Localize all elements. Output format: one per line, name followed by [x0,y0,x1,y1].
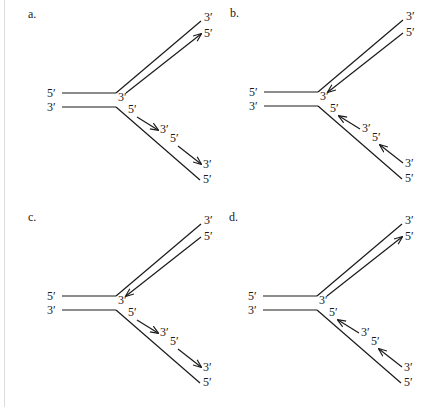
lower-frag1-end-label: 3′ [160,325,169,339]
lower-template-strand [116,107,200,180]
lower-frag1-end-label: 3′ [362,121,371,135]
lower-outer-end-label: 5′ [203,172,212,186]
upper-outer-end-label: 3′ [204,10,213,24]
panel-c: c. 5′ 3′ 3′ 5′ 3′ 5′ 3′ 5′ 3′ 5′ [28,210,213,389]
panel-label: b. [230,6,239,20]
lower-frag1-end-label: 3′ [160,122,169,136]
lower-frag2-start-label: 5′ [170,131,179,145]
lower-frag1-end-label: 3′ [361,325,370,339]
lower-template-strand [317,310,401,383]
upper-outer-end-label: 3′ [204,213,213,227]
upper-outer-end-label: 3′ [406,9,415,23]
upper-fork-label: 3′ [319,293,328,307]
parent-bottom-label: 3′ [47,100,56,114]
parent-top-label: 5′ [47,86,56,100]
lower-outer-end-label: 5′ [203,375,212,389]
lower-frag1-start-label: 5′ [128,305,137,319]
lower-outer-end-label: 5′ [404,375,413,389]
upper-fork-label: 3′ [118,90,127,104]
lower-frag2-start-label: 5′ [372,130,381,144]
panel-b: b. 5′ 3′ 3′ 5′ 3′ 5′ 3′ 5′ 3′ 5′ [230,6,415,185]
lower-template-strand [318,106,402,179]
upper-new-strand-arrow [126,34,201,93]
panel-label: c. [28,210,36,224]
upper-template-strand [116,224,201,296]
panel-d: d. 5′ 3′ 3′ 5′ 3′ 5′ 3′ 5′ 3′ 5′ [229,210,414,389]
upper-template-strand [318,20,403,92]
parent-top-label: 5′ [47,289,56,303]
lower-fragment2-arrow [379,349,402,367]
lower-frag2-end-label: 3′ [203,157,212,171]
upper-inner-end-label: 5′ [405,229,414,243]
lower-frag1-start-label: 5′ [329,305,338,319]
upper-inner-end-label: 5′ [204,26,213,40]
upper-inner-end-label: 5′ [406,25,415,39]
panel-label: a. [28,7,36,21]
upper-template-strand [317,224,402,296]
upper-fork-label: 3′ [320,89,329,103]
parent-bottom-label: 3′ [47,303,56,317]
upper-template-strand [116,21,201,93]
upper-new-strand-arrow [328,33,403,92]
panel-label: d. [229,210,238,224]
lower-fragment2-arrow [380,145,403,163]
parent-bottom-label: 3′ [248,303,257,317]
panel-a: a. 5′ 3′ 3′ 5′ 3′ 5′ 3′ 5′ 3′ 5′ [28,7,213,186]
lower-frag2-end-label: 3′ [405,156,414,170]
lower-template-strand [116,310,200,383]
upper-outer-end-label: 3′ [405,213,414,227]
upper-fork-label: 3′ [118,293,127,307]
lower-frag1-start-label: 5′ [330,101,339,115]
upper-new-strand-arrow [126,237,201,296]
lower-frag2-start-label: 5′ [371,334,380,348]
lower-frag2-end-label: 3′ [203,360,212,374]
lower-frag1-start-label: 5′ [128,102,137,116]
lower-outer-end-label: 5′ [405,171,414,185]
parent-bottom-label: 3′ [249,99,258,113]
lower-fragment2-arrow [178,349,201,367]
replication-fork-figure: a. 5′ 3′ 3′ 5′ 3′ 5′ 3′ 5′ 3′ 5′ b. 5′ 3… [0,0,439,408]
lower-fragment2-arrow [178,146,201,164]
upper-new-strand-arrow [327,237,402,296]
lower-frag2-start-label: 5′ [170,334,179,348]
lower-frag2-end-label: 3′ [404,360,413,374]
upper-inner-end-label: 5′ [204,229,213,243]
parent-top-label: 5′ [249,85,258,99]
parent-top-label: 5′ [248,289,257,303]
